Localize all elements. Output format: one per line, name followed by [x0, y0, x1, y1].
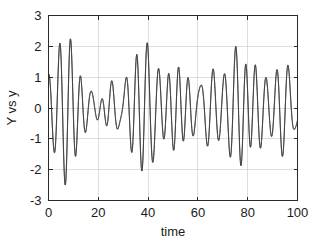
x-axis-title: time: [161, 224, 186, 239]
x-tick-label: 100: [287, 205, 309, 220]
y-tick-label: 3: [34, 8, 41, 23]
y-tick-labels: -3-2-10123: [30, 8, 42, 208]
y-tick-label: 2: [34, 39, 41, 54]
y-tick-label: -3: [30, 193, 42, 208]
series-line: [49, 39, 298, 185]
x-tick-labels: 020406080100: [45, 205, 308, 220]
x-tick-label: 40: [141, 205, 155, 220]
data-series-group: [49, 39, 298, 185]
x-tick-label: 60: [191, 205, 205, 220]
y-tick-label: 0: [34, 101, 41, 116]
y-axis-title: Y vs y: [4, 90, 19, 126]
x-tick-label: 20: [91, 205, 105, 220]
figure-container: 020406080100 -3-2-10123 time Y vs y: [0, 0, 318, 243]
grid-lines: [49, 16, 298, 201]
series-line: [49, 39, 298, 185]
x-tick-label: 80: [240, 205, 254, 220]
y-tick-label: 1: [34, 70, 41, 85]
x-tick-label: 0: [45, 205, 52, 220]
line-chart: 020406080100 -3-2-10123 time Y vs y: [0, 0, 318, 243]
y-tick-label: -1: [30, 131, 42, 146]
y-tick-label: -2: [30, 162, 42, 177]
